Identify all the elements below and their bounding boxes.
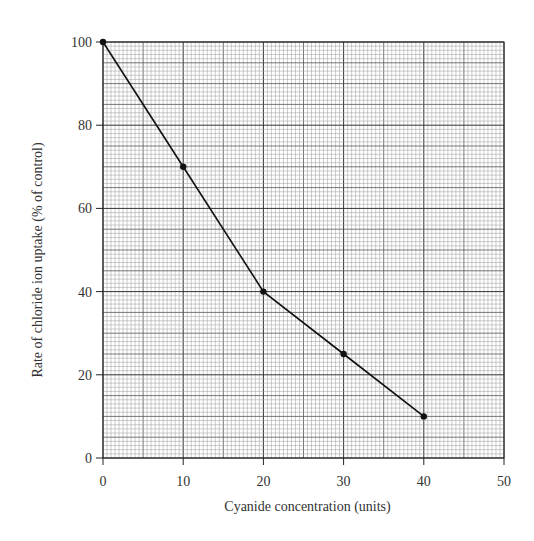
graph-paper-grid — [103, 42, 504, 458]
y-tick-label: 0 — [85, 451, 92, 466]
data-point-marker — [180, 164, 186, 170]
y-tick-label: 40 — [78, 285, 92, 300]
axis-ticks: 01020304050020406080100 — [71, 35, 511, 489]
x-tick-label: 10 — [176, 474, 190, 489]
x-tick-label: 20 — [256, 474, 270, 489]
x-tick-label: 0 — [100, 474, 107, 489]
data-point-marker — [421, 413, 427, 419]
x-tick-label: 50 — [497, 474, 511, 489]
data-point-marker — [340, 351, 346, 357]
x-tick-label: 40 — [417, 474, 431, 489]
y-tick-label: 100 — [71, 35, 92, 50]
y-tick-label: 20 — [78, 368, 92, 383]
y-tick-label: 60 — [78, 201, 92, 216]
data-point-marker — [100, 39, 106, 45]
line-chart: 01020304050020406080100 Cyanide concentr… — [0, 0, 534, 541]
data-point-marker — [260, 288, 266, 294]
x-axis-label: Cyanide concentration (units) — [224, 499, 391, 515]
y-tick-label: 80 — [78, 118, 92, 133]
x-tick-label: 30 — [337, 474, 351, 489]
y-axis-label: Rate of chloride ion uptake (% of contro… — [30, 142, 46, 378]
